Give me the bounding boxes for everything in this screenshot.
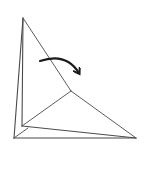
fold-arrow-icon xyxy=(40,58,79,73)
origami-diagram xyxy=(0,0,146,187)
inner-crease xyxy=(22,91,71,126)
upper-diagonal-edge xyxy=(23,18,71,91)
diagram-svg xyxy=(0,0,146,187)
lower-diagonal-edge xyxy=(71,91,136,138)
flap-bottom-edge xyxy=(22,126,136,138)
corner-crease xyxy=(14,128,28,138)
